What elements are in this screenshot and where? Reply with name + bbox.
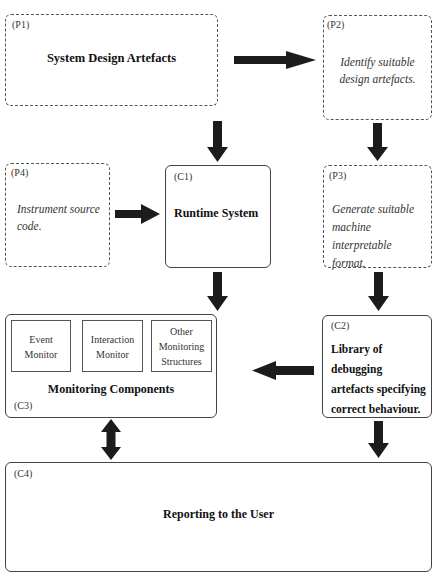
arrow-c2-to-c3 [252, 361, 314, 380]
node-c2-tag: (C2) [331, 320, 349, 331]
arrow-c3-c4-bidirectional [101, 419, 121, 460]
node-p2-line: design artefacts. [324, 71, 431, 88]
subcomponent-event-monitor: Event Monitor [11, 320, 71, 372]
node-p1: (P1) System Design Artefacts [5, 14, 218, 106]
subcomponent-line: Monitoring [152, 339, 211, 354]
node-p4-text: Instrument source code. [17, 201, 100, 235]
node-p3: (P3) Generate suitable machine interpret… [323, 165, 432, 268]
node-c2: (C2) Library of debugging artefacts spec… [322, 315, 432, 418]
node-p1-tag: (P1) [12, 19, 29, 30]
node-c4: (C4) Reporting to the User [5, 462, 432, 572]
node-p2-line: Identify suitable [324, 54, 431, 71]
subcomponent-line: Monitor [83, 347, 142, 362]
subcomponent-line: Structures [152, 354, 211, 369]
node-p3-line: Generate suitable [332, 200, 431, 218]
node-c3-tag: (C3) [14, 400, 32, 411]
node-c1-title: Runtime System [174, 206, 258, 221]
arrow-p3-to-c2 [368, 272, 389, 311]
node-p3-line: format. [332, 254, 431, 272]
node-p1-title: System Design Artefacts [6, 51, 217, 66]
node-c1-tag: (C1) [174, 171, 192, 182]
node-c3: Event Monitor Interaction Monitor Other … [5, 314, 217, 418]
node-p3-text: Generate suitable machine interpretable … [332, 200, 431, 272]
node-p2-tag: (P2) [327, 19, 344, 30]
node-p3-tag: (P3) [329, 170, 346, 181]
node-c2-line: artefacts specifying [331, 379, 431, 399]
node-c2-line: correct behaviour. [331, 399, 431, 419]
node-p4-line: code. [17, 218, 100, 235]
subcomponent-line: Other [152, 324, 211, 339]
arrow-p2-to-p3 [367, 123, 388, 161]
node-p3-line: machine interpretable [332, 218, 431, 254]
arrow-p4-to-c1 [115, 204, 160, 224]
arrow-c1-to-c3 [207, 272, 228, 311]
subcomponent-line: Event [12, 332, 70, 347]
node-c3-title: Monitoring Components [6, 382, 216, 397]
arrow-p1-to-p2 [234, 51, 316, 69]
node-p4-tag: (P4) [11, 167, 28, 178]
subcomponent-line: Interaction [83, 332, 142, 347]
node-c4-title: Reporting to the User [6, 507, 431, 522]
arrow-p1-to-c1 [207, 121, 228, 162]
subcomponent-other-monitoring-structures: Other Monitoring Structures [151, 320, 212, 372]
node-c2-line: Library of debugging [331, 339, 431, 379]
node-p4: (P4) Instrument source code. [5, 163, 110, 267]
node-p4-line: Instrument source [17, 201, 100, 218]
node-p2-text: Identify suitable design artefacts. [324, 54, 431, 88]
node-c2-title: Library of debugging artefacts specifyin… [331, 339, 431, 419]
arrow-c2-to-c4 [368, 421, 389, 458]
node-p2: (P2) Identify suitable design artefacts. [323, 15, 432, 120]
node-c1: (C1) Runtime System [165, 165, 271, 268]
node-c4-tag: (C4) [14, 468, 32, 479]
subcomponent-line: Monitor [12, 347, 70, 362]
subcomponent-interaction-monitor: Interaction Monitor [82, 320, 143, 372]
